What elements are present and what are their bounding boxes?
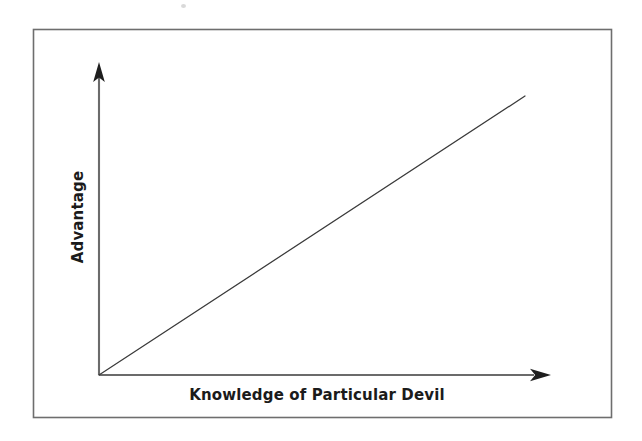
scan-speck — [181, 4, 186, 8]
figure-border — [34, 30, 612, 418]
y-axis-label: Advantage — [71, 139, 86, 295]
chart-canvas — [0, 0, 642, 441]
data-series-line — [99, 96, 525, 375]
x-axis-label: Knowledge of Particular Devil — [0, 388, 634, 403]
figure-panel: Knowledge of Particular Devil Advantage — [0, 0, 642, 441]
